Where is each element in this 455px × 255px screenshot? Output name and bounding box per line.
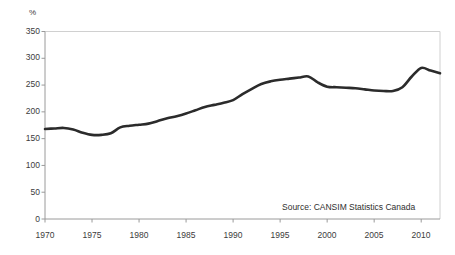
source-note: Source: CANSIM Statistics Canada bbox=[282, 202, 415, 212]
series-line-0 bbox=[45, 68, 440, 135]
data-series-group bbox=[45, 68, 440, 135]
tick-marks bbox=[42, 32, 422, 223]
chart-container: % 350 300 250 200 150 100 50 0 1970 1975… bbox=[0, 0, 455, 255]
plot-area bbox=[0, 0, 455, 255]
axis-frame bbox=[45, 32, 440, 220]
